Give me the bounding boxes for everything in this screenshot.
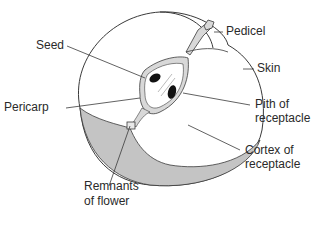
label-remnants-line1: Remnants bbox=[84, 180, 139, 193]
label-pedicel: Pedicel bbox=[226, 25, 265, 38]
label-pith-line2: receptacle bbox=[255, 112, 310, 125]
label-remnants-line2: of flower bbox=[84, 195, 129, 208]
label-pith-line1: Pith of bbox=[255, 98, 289, 111]
label-cortex-line1: Cortex of bbox=[245, 144, 294, 157]
label-seed: Seed bbox=[36, 39, 64, 52]
flower-remnant bbox=[127, 122, 135, 129]
label-cortex-line2: receptacle bbox=[245, 158, 300, 171]
label-pericarp: Pericarp bbox=[4, 101, 49, 114]
label-skin: Skin bbox=[257, 62, 280, 75]
